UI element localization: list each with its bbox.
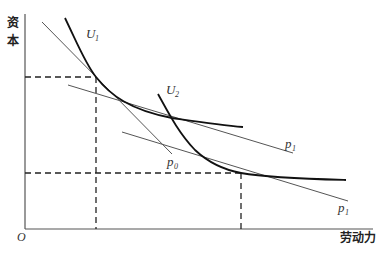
svg-text:1: 1: [345, 208, 349, 217]
guide-lines-point-1: [25, 77, 96, 229]
origin-label: O: [17, 230, 26, 244]
guide-lines-point-2: [25, 173, 241, 229]
label-p1-upper: p 1: [284, 136, 296, 153]
label-p0: p 0: [166, 154, 178, 171]
svg-text:2: 2: [175, 90, 179, 99]
svg-text:p: p: [166, 154, 174, 169]
svg-text:0: 0: [174, 162, 178, 171]
x-axis-label: 劳动力: [340, 230, 376, 245]
label-U1: U 1: [86, 26, 99, 43]
curve-U2: [158, 94, 346, 180]
y-axis-label-line2: 本: [7, 33, 19, 48]
label-U2: U 2: [166, 82, 179, 99]
svg-text:1: 1: [292, 144, 296, 153]
svg-text:p: p: [337, 200, 345, 215]
label-p1-lower: p 1: [337, 200, 349, 217]
diagram-canvas: 资 本 劳动力 O U 1 U 2 p 0 p 1 p 1: [0, 0, 383, 253]
svg-text:1: 1: [95, 34, 99, 43]
svg-text:p: p: [284, 136, 292, 151]
y-axis-label-line1: 资: [7, 15, 19, 30]
line-p1-lower: [122, 132, 348, 201]
